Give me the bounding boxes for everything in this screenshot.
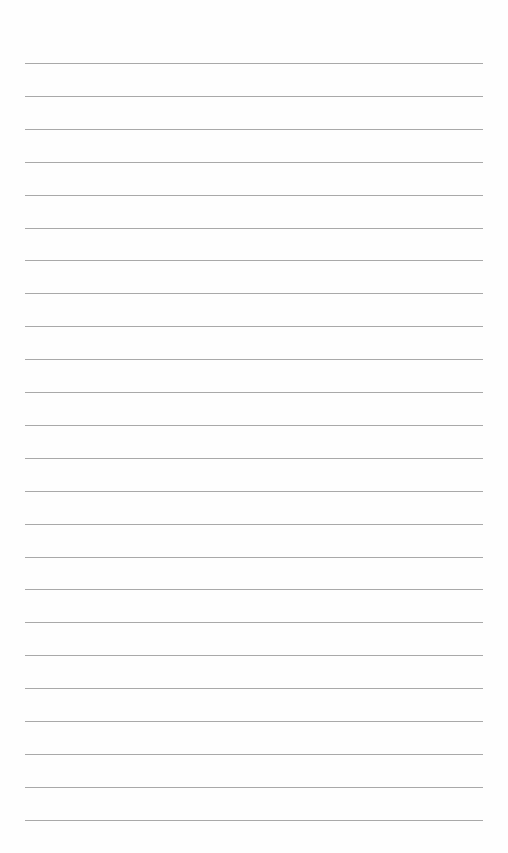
ruled-line [25,63,483,64]
ruled-line [25,293,483,294]
ruled-line [25,195,483,196]
ruled-line [25,688,483,689]
ruled-line [25,491,483,492]
ruled-line [25,655,483,656]
ruled-line [25,524,483,525]
ruled-line [25,162,483,163]
ruled-line [25,326,483,327]
ruled-line [25,458,483,459]
ruled-line [25,787,483,788]
ruled-page [0,0,508,853]
ruled-line [25,425,483,426]
ruled-line [25,754,483,755]
ruled-line [25,557,483,558]
ruled-line [25,359,483,360]
ruled-line [25,129,483,130]
ruled-line [25,228,483,229]
ruled-line [25,260,483,261]
ruled-line [25,721,483,722]
ruled-line [25,622,483,623]
ruled-line [25,589,483,590]
ruled-line [25,820,483,821]
ruled-line [25,96,483,97]
ruled-line [25,392,483,393]
